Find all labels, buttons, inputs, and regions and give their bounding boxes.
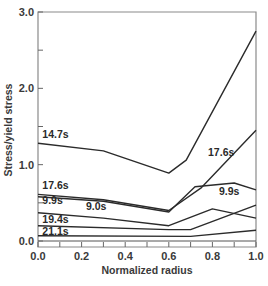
y-tick-label: 1.0 [19, 159, 34, 171]
y-tick-label: 2.0 [19, 82, 34, 94]
y-tick-label: 3.0 [19, 6, 34, 18]
curve-label: 19.4s [42, 213, 68, 225]
curve-label: 17.6s [208, 146, 234, 158]
x-tick-label: 0.0 [30, 250, 45, 262]
curve-label: 9.9s [219, 185, 240, 197]
curve-labels: 14.7s17.6s9.9s9.0s19.4s21.1s17.6s9.9s [42, 128, 239, 237]
y-axis-title: Stress/yield stress [2, 83, 14, 176]
y-tick-label: 0.0 [19, 235, 34, 247]
y-axis: 0.01.02.03.0 [19, 6, 43, 247]
x-tick-label: 0.4 [118, 250, 134, 262]
x-tick-label: 1.0 [248, 250, 263, 262]
x-tick-label: 0.6 [161, 250, 176, 262]
curves [38, 31, 256, 236]
curve-label: 9.9s [42, 194, 63, 206]
x-tick-label: 0.8 [205, 250, 220, 262]
curve-label: 9.0s [86, 200, 107, 212]
curve-label: 17.6s [42, 179, 68, 191]
x-axis: 0.00.20.40.60.81.0 [30, 242, 263, 262]
x-tick-label: 0.2 [74, 250, 89, 262]
curve-21-1s [38, 230, 256, 236]
curve-label: 14.7s [42, 128, 68, 140]
x-axis-title: Normalized radius [101, 264, 192, 276]
stress-chart: 0.01.02.03.0 0.00.20.40.60.81.0 14.7s17.… [0, 0, 268, 286]
curve-label: 21.1s [42, 225, 68, 237]
